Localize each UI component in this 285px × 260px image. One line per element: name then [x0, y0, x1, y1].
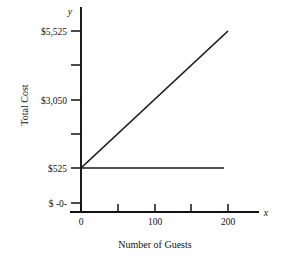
cost-line-chart: $5,525 $3,050 $525 $ -0- 0 100 200 y x T…: [0, 0, 285, 260]
chart-container: $5,525 $3,050 $525 $ -0- 0 100 200 y x T…: [0, 0, 285, 260]
y-tick-label-5525: $5,525: [41, 27, 67, 37]
y-tick-label-3050: $3,050: [41, 96, 67, 106]
x-tick-label-0: 0: [79, 217, 84, 227]
x-tick-label-200: 200: [221, 217, 236, 227]
y-axis-title: Total Cost: [19, 84, 30, 125]
x-tick-label-100: 100: [148, 217, 163, 227]
x-axis-title: Number of Guests: [118, 239, 191, 250]
y-tick-label-525: $525: [48, 164, 67, 174]
x-axis-letter: x: [263, 207, 269, 218]
y-tick-label-0: $ -0-: [49, 199, 67, 209]
variable-cost-line: [81, 31, 228, 168]
y-axis-letter: y: [67, 6, 73, 17]
